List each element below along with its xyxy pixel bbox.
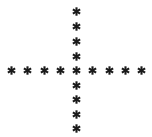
scatter-point-marker <box>40 66 49 75</box>
scatter-point-marker <box>7 66 16 75</box>
scatter-point-marker <box>56 66 65 75</box>
scatter-point-marker <box>72 52 81 61</box>
scatter-point-marker <box>72 110 81 119</box>
scatter-point-marker <box>72 66 81 75</box>
scatter-point-marker <box>72 81 81 90</box>
scatter-point-marker <box>121 66 130 75</box>
scatter-point-marker <box>105 66 114 75</box>
scatter-point-marker <box>72 22 81 31</box>
scatter-point-marker <box>72 95 81 104</box>
scatter-point-marker <box>88 66 97 75</box>
scatter-plot-canvas <box>0 0 152 137</box>
scatter-point-marker <box>72 124 81 133</box>
scatter-point-marker <box>23 66 32 75</box>
scatter-point-marker <box>72 7 81 16</box>
scatter-point-marker <box>137 66 146 75</box>
scatter-point-marker <box>72 37 81 46</box>
